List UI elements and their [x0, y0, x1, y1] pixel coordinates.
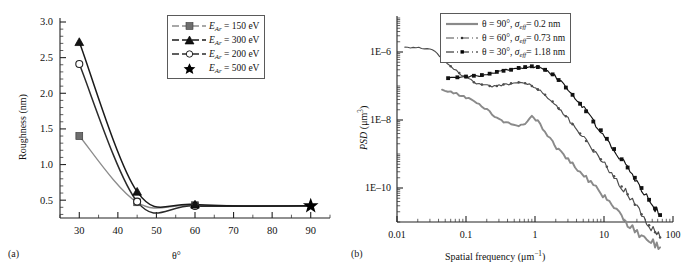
panel-b-y-tick-label: 1E–10 [365, 182, 391, 193]
legend-label-theta-60: θ = 60°, σeff= 0.73 nm [479, 33, 565, 44]
legend-sigma-60: = 0.73 nm [526, 33, 565, 43]
legend-sigma-90: = 0.2 nm [526, 19, 560, 29]
panel-b-x-axis-title: Spatial frequency (μm−1) [445, 250, 545, 262]
legend-symbol-filled-triangle [172, 34, 206, 46]
legend-sigma-30: = 1.18 nm [526, 47, 565, 57]
figure-container: 0.51.01.52.02.53.030405060708090 Roughne… [0, 0, 690, 273]
panel-a-x-tick-label: 60 [190, 225, 201, 236]
panel-a-y-tick-label: 2.0 [40, 88, 53, 99]
legend-theta-30: θ = 30°, [482, 47, 515, 57]
panel-b-x-tick-label: 100 [666, 229, 681, 240]
legend-symbol-solid-line [445, 18, 479, 30]
legend-value-ar-500: = 500 eV [222, 63, 260, 73]
legend-label-ar-500: EAr = 500 eV [206, 63, 259, 74]
legend-item-ar-150: EAr = 150 eV [172, 19, 259, 33]
panel-a-x-tick-label: 30 [74, 225, 85, 236]
legend-value-ar-300: = 300 eV [222, 35, 260, 45]
panel-a-series-line [79, 64, 310, 213]
panel-a-series-markers [303, 198, 319, 213]
legend-theta-90: θ = 90°, [482, 19, 515, 29]
panel-a-y-tick-label: 2.5 [40, 52, 53, 63]
panel-a-x-tick-label: 50 [151, 225, 162, 236]
legend-item-ar-500: EAr = 500 eV [172, 61, 259, 75]
panel-a-series-line [79, 136, 310, 208]
legend-symbol-filled-square [172, 20, 206, 32]
panel-b-legend: θ = 90°, σeff= 0.2 nm θ = 60°, σeff= 0.7… [440, 13, 571, 63]
panel-b-y-tick-label: 1E–6 [370, 46, 391, 57]
legend-item-ar-300: EAr = 300 eV [172, 33, 259, 47]
panel-b-series-theta-60 [405, 47, 661, 239]
panel-a-y-tick-label: 1.0 [40, 159, 53, 170]
panel-a-label: (a) [8, 248, 19, 259]
legend-symbol-dashdot-dot [445, 32, 479, 44]
panel-a-roughness-chart: 0.51.01.52.02.53.030405060708090 Roughne… [0, 0, 345, 273]
panel-a-x-tick-label: 70 [228, 225, 239, 236]
legend-label-ar-300: EAr = 300 eV [206, 35, 259, 46]
panel-b-x-tick-label: 0.1 [460, 229, 473, 240]
panel-b-series-theta-30 [446, 64, 662, 217]
panel-b-x-tick-label: 0.01 [388, 229, 406, 240]
panel-a-y-axis-title: Roughness (nm) [17, 94, 28, 160]
panel-a-x-tick-label: 90 [305, 225, 316, 236]
panel-a-legend: EAr = 150 eV EAr = 300 eV EAr = 200 eV E… [167, 15, 265, 79]
panel-a-y-tick-label: 1.5 [40, 123, 53, 134]
panel-b-x-tick-label: 1 [533, 229, 538, 240]
panel-a-y-tick-label: 3.0 [40, 16, 53, 27]
legend-symbol-open-circle [172, 48, 206, 60]
panel-b-x-tick-label: 10 [599, 229, 609, 240]
legend-symbol-filled-star [172, 62, 206, 74]
panel-b-label: (b) [351, 248, 363, 259]
legend-item-theta-30: θ = 30°, σeff= 1.18 nm [445, 45, 565, 59]
panel-a-x-tick-label: 80 [267, 225, 278, 236]
legend-label-ar-200: EAr = 200 eV [206, 49, 259, 60]
legend-item-theta-90: θ = 90°, σeff= 0.2 nm [445, 17, 565, 31]
panel-a-y-tick-label: 0.5 [40, 195, 53, 206]
panel-b-y-axis-title: PSD (μm3) [357, 106, 369, 150]
legend-theta-60: θ = 60°, [482, 33, 515, 43]
legend-item-ar-200: EAr = 200 eV [172, 47, 259, 61]
legend-value-ar-150: = 150 eV [222, 21, 260, 31]
panel-a-x-tick-label: 40 [113, 225, 124, 236]
legend-label-theta-90: θ = 90°, σeff= 0.2 nm [479, 19, 560, 30]
legend-label-ar-150: EAr = 150 eV [206, 21, 259, 32]
panel-a-x-axis-title: θ° [172, 250, 181, 261]
panel-b-y-tick-label: 1E–8 [370, 114, 391, 125]
legend-item-theta-60: θ = 60°, σeff= 0.73 nm [445, 31, 565, 45]
panel-b-psd-chart: 1E–61E–81E–100.010.1110100 PSD (μm3) Spa… [345, 0, 690, 273]
legend-symbol-dashdot-square [445, 46, 479, 58]
panel-a-series-markers [76, 133, 199, 209]
legend-label-theta-30: θ = 30°, σeff= 1.18 nm [479, 47, 565, 58]
legend-value-ar-200: = 200 eV [222, 49, 260, 59]
